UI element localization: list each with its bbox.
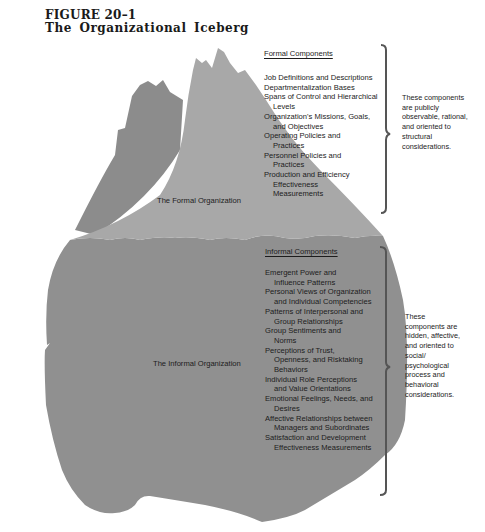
list-item: Spans of Control and Hierarchical Levels — [264, 92, 384, 111]
informal-components-heading: Informal Components — [265, 247, 338, 257]
list-item: Job Definitions and Descriptions — [264, 73, 384, 83]
list-item: Operating Policies and Practices — [264, 131, 343, 150]
list-item: Departmentalization Bases — [264, 83, 384, 93]
list-item: Individual Role Perceptions and Value Or… — [265, 375, 364, 394]
iceberg-illustration — [0, 0, 485, 532]
formal-note: These components are publicly observable… — [402, 93, 470, 151]
informal-note: These components are hidden, affective, … — [405, 312, 467, 399]
list-item: Personal Views of Organization and Indiv… — [265, 287, 373, 306]
list-item: Perceptions of Trust, Openness, and Risk… — [265, 346, 364, 375]
list-item: Production and Efficiency Effectiveness … — [264, 170, 365, 199]
list-item: Emergent Power and Influence Patterns — [265, 268, 352, 287]
formal-components-list: Job Definitions and Descriptions Departm… — [264, 73, 384, 199]
informal-components-list: Emergent Power and Influence Patterns Pe… — [265, 268, 373, 452]
list-item: Group Sentiments and Norms — [265, 326, 362, 345]
list-item: Personnel Policies and Practices — [264, 151, 373, 170]
list-item: Patterns of Interpersonal and Group Rela… — [265, 307, 369, 326]
formal-organization-label: The Formal Organization — [157, 196, 241, 206]
list-item: Affective Relationships between Managers… — [265, 414, 373, 433]
informal-organization-label: The Informal Organization — [153, 359, 241, 369]
list-item: Satisfaction and Development Effectivene… — [265, 433, 376, 452]
list-item: Organization's Missions, Goals, and Obje… — [264, 112, 378, 131]
list-item: Emotional Feelings, Needs, and Desires — [265, 394, 373, 413]
formal-components-heading: Formal Components — [264, 49, 333, 59]
